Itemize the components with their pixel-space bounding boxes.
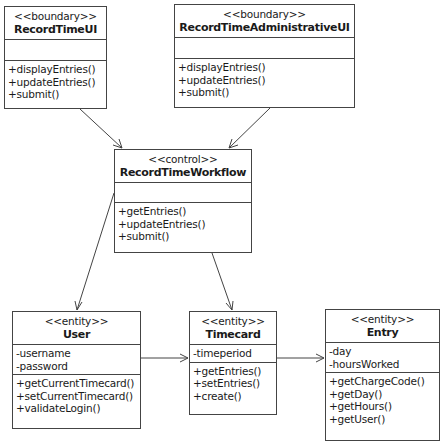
operation: +submit() (8, 88, 103, 101)
operation: +updateEntries() (178, 74, 351, 87)
operation: +displayEntries() (8, 63, 103, 76)
arrow-ui-to-workflow (80, 109, 122, 148)
class-entry: <<entity>> Entry -day -hoursWorked +getC… (325, 309, 440, 441)
arrow-workflow-to-timecard (212, 253, 232, 310)
stereotype-label: <<boundary>> (7, 10, 104, 23)
attribute: -hoursWorked (329, 358, 436, 371)
class-header: <<boundary>> RecordTimeUI (5, 7, 106, 40)
class-name: RecordTimeUI (7, 23, 104, 37)
operation: +getCurrentTimecard() (16, 377, 137, 390)
attribute: -day (329, 345, 436, 358)
class-header: <<entity>> User (13, 312, 140, 345)
attribute: -username (16, 347, 137, 360)
class-record-time-ui: <<boundary>> RecordTimeUI +displayEntrie… (4, 6, 107, 109)
operation: +updateEntries() (8, 76, 103, 89)
attributes-compartment (175, 38, 354, 59)
operations-compartment: +getEntries() +setEntries() +create() (190, 363, 276, 405)
stereotype-label: <<entity>> (15, 315, 138, 328)
attributes-compartment: -username -password (13, 345, 140, 375)
attribute: -timeperiod (193, 347, 273, 360)
class-name: User (15, 328, 138, 342)
class-name: RecordTimeAdministrativeUI (177, 21, 352, 35)
operation: +setCurrentTimecard() (16, 390, 137, 403)
class-record-time-administrative-ui: <<boundary>> RecordTimeAdministrativeUI … (174, 4, 355, 108)
operation: +getUser() (329, 413, 436, 426)
arrow-workflow-to-user (77, 193, 114, 310)
class-user: <<entity>> User -username -password +get… (12, 311, 141, 429)
class-header: <<boundary>> RecordTimeAdministrativeUI (175, 5, 354, 38)
uml-class-diagram: <<boundary>> RecordTimeUI +displayEntrie… (0, 0, 447, 446)
operations-compartment: +getCurrentTimecard() +setCurrentTimecar… (13, 375, 140, 417)
class-name: Timecard (192, 328, 274, 342)
operation: +setEntries() (193, 377, 273, 390)
attributes-compartment: -day -hoursWorked (326, 343, 439, 373)
operation: +getDay() (329, 388, 436, 401)
stereotype-label: <<entity>> (192, 315, 274, 328)
operation: +validateLogin() (16, 402, 137, 415)
attribute: -password (16, 360, 137, 373)
operations-compartment: +displayEntries() +updateEntries() +subm… (5, 61, 106, 103)
operation: +getChargeCode() (329, 375, 436, 388)
attributes-compartment (5, 40, 106, 61)
arrow-admin-to-workflow (229, 108, 270, 148)
class-header: <<entity>> Entry (326, 310, 439, 343)
operation: +displayEntries() (178, 61, 351, 74)
stereotype-label: <<entity>> (328, 313, 437, 326)
class-name: RecordTimeWorkflow (117, 166, 249, 180)
stereotype-label: <<control>> (117, 153, 249, 166)
class-record-time-workflow: <<control>> RecordTimeWorkflow +getEntri… (114, 149, 252, 253)
operation: +submit() (118, 230, 248, 243)
attributes-compartment (115, 183, 251, 203)
operation: +updateEntries() (118, 218, 248, 231)
operation: +create() (193, 390, 273, 403)
operations-compartment: +getChargeCode() +getDay() +getHours() +… (326, 373, 439, 427)
class-name: Entry (328, 326, 437, 340)
operations-compartment: +displayEntries() +updateEntries() +subm… (175, 59, 354, 101)
operations-compartment: +getEntries() +updateEntries() +submit() (115, 203, 251, 245)
operation: +submit() (178, 86, 351, 99)
class-timecard: <<entity>> Timecard -timeperiod +getEntr… (189, 311, 277, 415)
stereotype-label: <<boundary>> (177, 8, 352, 21)
class-header: <<control>> RecordTimeWorkflow (115, 150, 251, 183)
attributes-compartment: -timeperiod (190, 345, 276, 363)
operation: +getEntries() (193, 365, 273, 378)
class-header: <<entity>> Timecard (190, 312, 276, 345)
operation: +getHours() (329, 400, 436, 413)
operation: +getEntries() (118, 205, 248, 218)
